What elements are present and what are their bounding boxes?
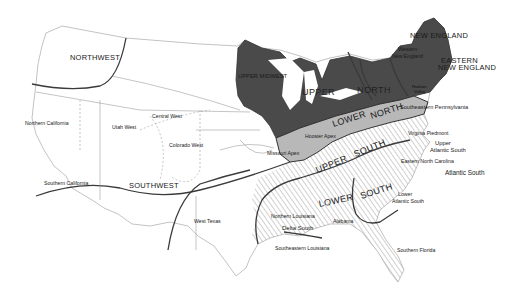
label-southeastern-louisiana: Southeastern Louisiana [275, 246, 330, 251]
label-eastern-north-carolina: Eastern North Carolina [401, 159, 454, 164]
label-southeastern-pennsylvania: Southeastern Pennsylvania [400, 105, 468, 111]
label-alabama: Alabama [333, 219, 353, 224]
label-north: NORTH [357, 86, 391, 95]
label-new-england: NEW ENGLAND [410, 32, 468, 40]
label-eastern-new-england-2: NEW ENGLAND [438, 64, 496, 72]
label-southern-florida: Southern Florida [397, 248, 435, 253]
label-northwest: NORTHWEST [70, 54, 120, 62]
label-utah-west: Utah West [112, 125, 136, 130]
label-virginia-piedmont: Virginia Piedmont [408, 131, 449, 136]
label-upper-atlantic-south-2: Atlantic South [430, 148, 466, 154]
label-northern-louisiana: Northern Louisiana [271, 214, 315, 219]
label-western-new-england-2: New England [392, 54, 423, 59]
label-delta-south: Delta South [282, 225, 313, 231]
label-west-texas: West Texas [194, 219, 221, 224]
label-southwest: SOUTHWEST [129, 182, 179, 190]
label-southern-california: Southern California [44, 181, 88, 186]
label-western-new-england-1: Western [398, 47, 417, 52]
label-upper: UPPER [302, 88, 335, 97]
label-missouri-apex: Missouri Apex [267, 151, 299, 156]
label-atlantic-south: Atlantic South [445, 170, 484, 176]
label-colorado-west: Colorado West [169, 143, 203, 148]
label-lower-atlantic-south-2: Atlantic South [392, 199, 424, 204]
label-northern-california: Northern California [25, 121, 69, 126]
label-upper-midwest: UPPER MIDWEST [238, 74, 287, 80]
label-hoosier-apex: Hoosier Apex [305, 134, 336, 139]
label-upper-atlantic-south-1: Upper [435, 141, 451, 147]
label-lower-atlantic-south-1: Lower [398, 192, 412, 197]
label-central-west: Central West [152, 114, 182, 119]
label-hudson-valley-2: Valley [414, 90, 425, 94]
